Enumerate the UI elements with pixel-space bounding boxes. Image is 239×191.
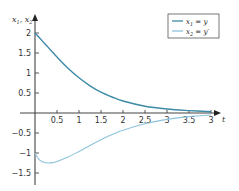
axes: 0.511.522.533.5321.510.5−0.5−1−1.5 [12,14,221,185]
line-chart: 0.511.522.533.5321.510.5−0.5−1−1.5 x1 = … [0,0,239,191]
y-tick-label: 1.5 [18,49,31,58]
y-tick-label: −1 [19,149,31,158]
x-axis-label: t [222,115,226,124]
x-axis-arrow-icon [214,110,221,116]
y-tick-label: −1.5 [12,169,31,178]
legend: x1 = y x2 = y′ [168,14,219,38]
x-tick-label: 1 [76,116,81,125]
y-tick-label: −0.5 [12,129,31,138]
series-lines [35,33,211,163]
x-tick-label: 3 [208,116,213,125]
y-tick-label: 0.5 [18,89,31,98]
y-tick-label: 2 [26,29,31,38]
x-tick-label: 1.5 [95,116,108,125]
x-tick-label: 0.5 [51,116,64,125]
y-axis-arrow-icon [32,14,38,21]
legend-label-x1: x1 = y [186,18,208,27]
series-line-x1 [35,33,211,112]
x-tick-label: 3 [164,116,169,125]
y-tick-label: 1 [26,69,31,78]
legend-label-x2: x2 = y′ [186,28,209,37]
y-axis-label: x1, x2 [12,15,33,25]
x-tick-label: 2 [120,116,125,125]
